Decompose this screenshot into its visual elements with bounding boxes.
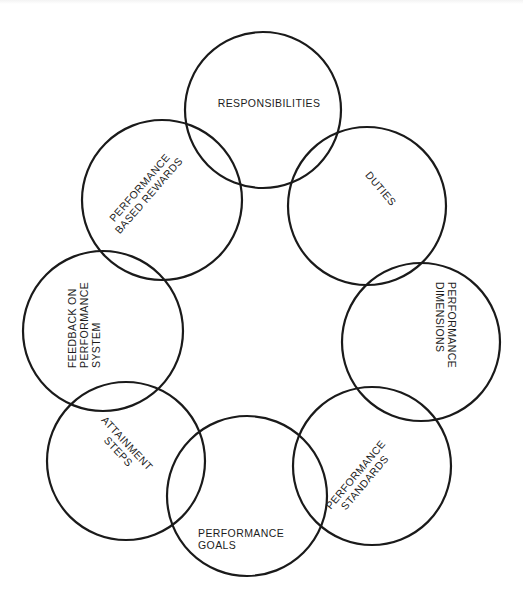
circle-duties: [288, 127, 446, 285]
label-line: GOALS: [198, 539, 236, 551]
circle-performance-dimensions: [342, 263, 500, 421]
label-line: SYSTEM: [90, 322, 102, 368]
circle-performance-based-rewards: [82, 120, 242, 280]
circle-responsibilities: [185, 32, 341, 188]
label-duties: DUTIES: [363, 169, 398, 208]
label-line: DIMENSIONS: [434, 282, 446, 353]
label-performance-standards: PERFORMANCESTANDARDS: [323, 438, 397, 519]
label-responsibilities: RESPONSIBILITIES: [218, 97, 321, 109]
label-line: RESPONSIBILITIES: [218, 97, 321, 109]
label-attainment-steps: ATTAINMENTSTEPS: [90, 414, 155, 481]
performance-cycle-diagram: RESPONSIBILITIESDUTIESPERFORMANCEDIMENSI…: [0, 0, 523, 596]
label-line: PERFORMANCE: [78, 282, 90, 368]
label-line: PERFORMANCE: [446, 282, 458, 368]
label-line: DUTIES: [363, 169, 398, 208]
label-performance-goals: PERFORMANCEGOALS: [198, 527, 284, 551]
label-performance-based-rewards: PERFORMANCEBASED REWARDS: [103, 147, 185, 236]
label-layer: RESPONSIBILITIESDUTIESPERFORMANCEDIMENSI…: [66, 97, 458, 551]
label-line: PERFORMANCE: [198, 527, 284, 539]
label-line: FEEDBACK ON: [66, 288, 78, 368]
circle-performance-goals: [167, 416, 327, 576]
circle-layer: [23, 32, 500, 576]
circle-feedback-on-performance-system: [23, 251, 183, 411]
label-performance-dimensions: PERFORMANCEDIMENSIONS: [434, 282, 458, 368]
label-feedback-on-performance-system: FEEDBACK ONPERFORMANCESYSTEM: [66, 282, 102, 368]
